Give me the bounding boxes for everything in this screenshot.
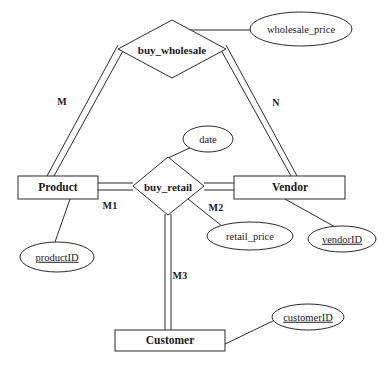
connector-customer-buy-retail (165, 214, 171, 330)
cardinality-label-m3: M3 (173, 270, 188, 281)
connector-product-buy-retail (98, 183, 133, 190)
relationship-label-buy-retail: buy_retail (144, 182, 192, 193)
attribute-label-customer-id: customerID (283, 313, 333, 324)
entity-label-customer: Customer (146, 335, 195, 347)
er-diagram-canvas: buy_wholesale buy_retail Product Vendor … (0, 0, 386, 366)
cardinality-label-m2: M2 (209, 202, 224, 213)
connector-product-buy-wholesale (47, 45, 124, 176)
attribute-label-date: date (199, 135, 217, 146)
connector-product-product-id (55, 199, 70, 242)
cardinality-label-m1: M1 (103, 200, 118, 211)
attribute-label-retail-price: retail_price (226, 232, 274, 243)
cardinality-label-m: M (57, 96, 67, 107)
connector-customer-customer-id (225, 320, 275, 344)
attribute-label-vendor-id: vendorID (322, 235, 362, 246)
connector-vendor-vendor-id (285, 199, 337, 228)
connector-vendor-buy-wholesale (221, 45, 297, 176)
relationship-label-buy-wholesale: buy_wholesale (138, 45, 206, 56)
connector-vendor-buy-retail (204, 183, 234, 190)
entity-label-vendor: Vendor (272, 182, 308, 194)
entity-label-product: Product (38, 182, 77, 194)
cardinality-label-n: N (272, 97, 279, 108)
attribute-label-product-id: productID (35, 253, 78, 264)
attribute-label-wholesale-price: wholesale_price (267, 25, 335, 36)
